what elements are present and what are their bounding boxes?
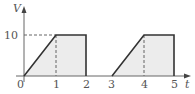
- pulse-2-area: [112, 35, 174, 76]
- x-tick-2: 2: [83, 79, 90, 90]
- y-axis-arrow-icon: [22, 6, 27, 13]
- x-axis-label: t: [185, 79, 189, 90]
- y-axis-label: V: [13, 3, 21, 14]
- x-tick-3: 3: [108, 79, 115, 90]
- x-tick-0: 0: [17, 79, 24, 90]
- x-tick-1: 1: [53, 79, 60, 90]
- velocity-time-chart: [0, 0, 195, 94]
- y-tick-10: 10: [4, 30, 18, 41]
- pulse-1-area: [24, 35, 86, 76]
- x-tick-5: 5: [171, 79, 178, 90]
- x-tick-4: 4: [141, 79, 148, 90]
